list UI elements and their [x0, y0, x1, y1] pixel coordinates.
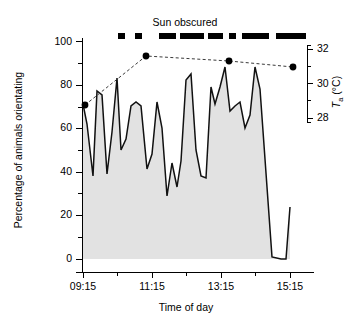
x-tick-label-1315: 13:15 — [208, 280, 234, 292]
y2-tick-label-32: 32 — [317, 42, 329, 54]
x-tick-label-0915: 09:15 — [70, 280, 96, 292]
sun-obscured-bar — [276, 33, 306, 39]
y-tick-label-20: 20 — [60, 208, 72, 220]
sun-obscured-bar — [159, 33, 176, 39]
sun-obscured-label: Sun obscured — [153, 16, 218, 28]
sun-obscured-bar — [242, 33, 269, 39]
sun-obscured-bar — [135, 33, 142, 39]
y-tick-label-80: 80 — [60, 78, 72, 90]
y-tick-label-60: 60 — [60, 121, 72, 133]
sun-obscured-bar — [180, 33, 204, 39]
temperature-point — [290, 64, 297, 71]
temperature-point — [226, 58, 233, 65]
sun-obscured-bar — [208, 33, 223, 39]
y-axis-right: 32 30 28 — [307, 42, 329, 123]
y-axis-left-title: Percentage of animals orientating — [12, 72, 24, 229]
sun-obscured-bar — [118, 33, 125, 39]
x-tick-label-1515: 15:15 — [277, 280, 303, 292]
sun-obscured-bars-group — [118, 33, 306, 39]
sun-obscured-bar — [229, 33, 236, 39]
temperature-point — [82, 102, 89, 109]
y2-title-unit: (°C) — [330, 76, 342, 98]
figure-container: Sun obscured 0 20 40 60 80 100 Percentag… — [0, 0, 358, 322]
y-tick-label-0: 0 — [66, 252, 72, 264]
x-axis: 09:15 11:15 13:15 15:15 — [70, 272, 314, 292]
temperature-point — [143, 53, 150, 60]
svg-text:Ta (°C): Ta (°C) — [330, 76, 345, 108]
y-axis-right-title: Ta (°C) — [330, 76, 345, 108]
percentage-area-fill — [82, 67, 290, 259]
y2-tick-label-30: 30 — [317, 77, 329, 89]
x-tick-label-1115: 11:15 — [139, 280, 165, 292]
x-axis-title: Time of day — [159, 301, 214, 313]
y-axis-left: 0 20 40 60 80 100 — [54, 35, 82, 272]
y-tick-label-100: 100 — [54, 35, 72, 47]
y2-tick-label-28: 28 — [317, 111, 329, 123]
percentage-series-group — [82, 67, 290, 259]
chart-canvas: Sun obscured 0 20 40 60 80 100 Percentag… — [0, 0, 358, 322]
y-tick-label-40: 40 — [60, 165, 72, 177]
